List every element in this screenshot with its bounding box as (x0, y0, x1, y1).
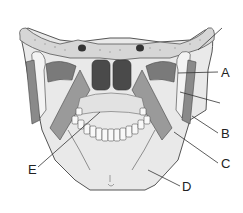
foramen-left (78, 45, 86, 52)
nasal-cavity-right (113, 60, 131, 90)
anatomy-diagram (0, 0, 243, 213)
label-D: D (182, 180, 191, 193)
label-C: C (221, 157, 230, 170)
lateral-pterygoid-left (46, 61, 76, 82)
foramen-right (136, 45, 144, 52)
nasal-cavity-left (92, 60, 110, 90)
label-A: A (221, 66, 230, 79)
palate (76, 93, 146, 115)
lateral-pterygoid-right (146, 61, 176, 82)
label-E: E (28, 163, 37, 176)
label-B: B (221, 127, 230, 140)
